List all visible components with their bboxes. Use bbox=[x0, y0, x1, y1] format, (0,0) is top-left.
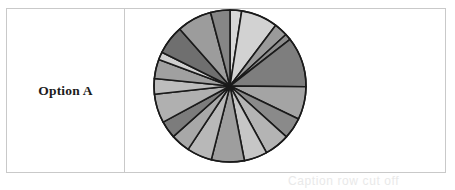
chart-cell bbox=[125, 9, 445, 172]
page-root: Option A Caption row cut off bbox=[0, 0, 455, 190]
caption-text: Caption row cut off bbox=[288, 176, 399, 188]
option-label: Option A bbox=[38, 83, 93, 99]
caption-strip: Caption row cut off bbox=[0, 176, 455, 190]
option-label-cell: Option A bbox=[7, 9, 125, 172]
pie-chart-svg bbox=[126, 5, 341, 177]
pie-chart bbox=[125, 9, 445, 172]
table-row: Option A bbox=[6, 8, 446, 173]
